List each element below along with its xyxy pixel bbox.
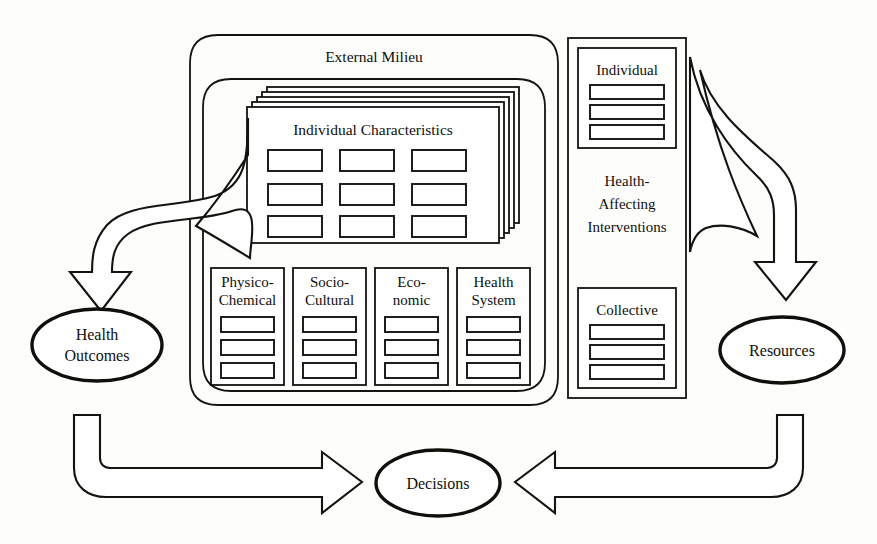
domain-box-health-system: Health System xyxy=(457,268,530,385)
framework-diagram: External Milieu Individual Characteristi… xyxy=(0,0,877,544)
node-health-outcomes: Health Outcomes xyxy=(32,309,162,381)
external-milieu-label: External Milieu xyxy=(325,48,423,65)
domain-label-line1: Socio- xyxy=(310,274,349,290)
domain-label-line1: Physico- xyxy=(221,274,274,290)
intervention-bar xyxy=(590,345,664,359)
domain-label-line1: Eco- xyxy=(397,274,425,290)
characteristic-cell xyxy=(412,216,466,237)
domain-bar xyxy=(303,317,356,332)
interventions-label-line3: Interventions xyxy=(587,219,666,235)
domain-bar xyxy=(467,317,520,332)
arrow-interventions-to-resources xyxy=(690,57,816,300)
domain-bar xyxy=(303,363,356,378)
domain-bar xyxy=(385,363,438,378)
intervention-bar xyxy=(590,105,664,119)
node-resources: Resources xyxy=(720,317,844,383)
intervention-bar xyxy=(590,85,664,99)
domain-label-line2: Chemical xyxy=(219,292,276,308)
health-outcomes-label-line2: Outcomes xyxy=(65,347,130,364)
decisions-label: Decisions xyxy=(406,475,469,492)
domain-bar xyxy=(221,317,274,332)
intervention-bar xyxy=(590,365,664,379)
domain-box-socio-cultural: Socio- Cultural xyxy=(293,268,366,385)
interventions-label-line2: Affecting xyxy=(598,196,656,212)
domain-box-physico-chemical: Physico- Chemical xyxy=(211,268,284,385)
domain-box-economic: Eco- nomic xyxy=(375,268,448,385)
domain-label-line2: System xyxy=(471,292,516,308)
health-outcomes-label-line1: Health xyxy=(76,326,119,343)
intervention-box-collective: Collective xyxy=(578,288,676,388)
characteristic-cell xyxy=(340,184,394,205)
characteristic-cell xyxy=(268,216,322,237)
intervention-label-collective: Collective xyxy=(596,302,658,318)
intervention-bar xyxy=(590,325,664,339)
diagram-canvas: External Milieu Individual Characteristi… xyxy=(0,0,877,544)
intervention-bar xyxy=(590,125,664,139)
domain-bar xyxy=(467,340,520,355)
characteristic-cell xyxy=(412,150,466,171)
characteristic-cell xyxy=(340,216,394,237)
arrow-health-outcomes-to-decisions xyxy=(74,415,362,513)
arrow-resources-to-decisions xyxy=(515,415,803,513)
domain-bar xyxy=(221,363,274,378)
characteristic-cell xyxy=(340,150,394,171)
domain-bar xyxy=(467,363,520,378)
intervention-box-individual: Individual xyxy=(578,48,676,148)
interventions-label-line1: Health- xyxy=(605,173,650,189)
domain-label-line2: nomic xyxy=(393,292,431,308)
characteristic-cell xyxy=(268,150,322,171)
health-outcomes-ellipse xyxy=(32,309,162,381)
domain-label-line2: Cultural xyxy=(305,292,354,308)
domain-bar xyxy=(221,340,274,355)
node-decisions: Decisions xyxy=(376,450,500,516)
domain-bar xyxy=(303,340,356,355)
domain-bar xyxy=(385,340,438,355)
individual-characteristics-label: Individual Characteristics xyxy=(293,121,453,138)
intervention-label-individual: Individual xyxy=(596,62,658,78)
characteristic-cell xyxy=(268,184,322,205)
domain-label-line1: Health xyxy=(474,274,514,290)
resources-label: Resources xyxy=(749,342,815,359)
domain-bar xyxy=(385,317,438,332)
characteristic-cell xyxy=(412,184,466,205)
